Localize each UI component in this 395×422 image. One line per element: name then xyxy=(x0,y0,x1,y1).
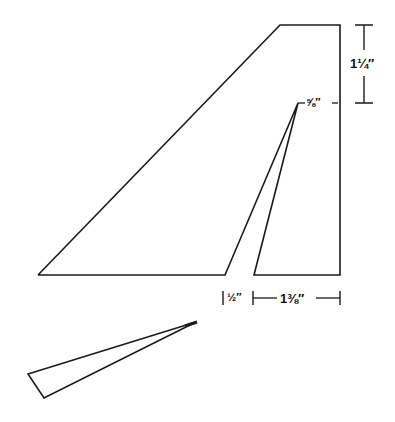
fin-outline xyxy=(38,25,340,275)
height-dimension-label: 1¼″ xyxy=(350,57,374,70)
gap-dimension-label: ½″ xyxy=(227,292,241,303)
wedge-tip xyxy=(185,322,197,326)
base-dimension-label: 1⅜″ xyxy=(280,292,304,305)
diagram-canvas xyxy=(0,0,395,422)
wedge-piece xyxy=(28,322,196,398)
notch-dimension-label: ⅝″ xyxy=(306,97,320,108)
